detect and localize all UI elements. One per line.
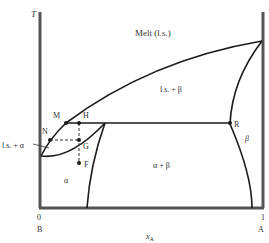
point-R-dot bbox=[228, 121, 232, 125]
point-N-dot bbox=[48, 138, 52, 142]
point-R-label: R bbox=[234, 120, 240, 129]
region-alpha-label: α bbox=[64, 176, 69, 185]
point-H-label: H bbox=[83, 111, 89, 120]
y-axis-label: T bbox=[31, 9, 37, 19]
point-M-label: M bbox=[53, 111, 60, 120]
region-alpha-beta-label: α + β bbox=[153, 161, 170, 170]
region-ls-alpha-label: l.s. + α bbox=[2, 141, 25, 150]
component-A-label: A bbox=[258, 225, 264, 234]
x-axis-label: xA bbox=[145, 232, 155, 242]
solidus-beta-curve bbox=[230, 41, 262, 124]
liquidus-beta-curve bbox=[66, 41, 262, 123]
point-M-dot bbox=[64, 121, 68, 125]
point-F-dot bbox=[77, 161, 81, 165]
point-H-dot bbox=[77, 121, 81, 125]
point-G-dot bbox=[77, 138, 81, 142]
region-ls-beta-label: l.s. + β bbox=[160, 85, 182, 94]
x-tick-0: 0 bbox=[37, 213, 41, 222]
x-tick-1: 1 bbox=[261, 213, 265, 222]
point-F-label: F bbox=[84, 160, 89, 169]
component-B-label: B bbox=[37, 225, 42, 234]
point-N-label: N bbox=[42, 127, 48, 136]
alpha-solvus-curve bbox=[87, 123, 105, 208]
region-melt-label: Melt (l.s.) bbox=[135, 28, 171, 38]
point-G-label: G bbox=[83, 142, 89, 151]
phase-diagram: T Melt (l.s.) l.s. + β β α + β α l.s. + … bbox=[0, 0, 269, 243]
region-beta-label: β bbox=[244, 134, 249, 143]
